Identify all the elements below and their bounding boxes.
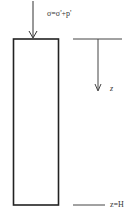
bottom-depth-label: z=H [110,201,124,209]
soil-column-diagram [0,0,136,223]
stress-label: σ=σ'+p' [47,10,72,18]
load-arrow-icon [29,1,37,38]
depth-arrow-icon [95,39,101,91]
depth-axis-label: z [110,85,113,93]
soil-column [14,39,59,205]
